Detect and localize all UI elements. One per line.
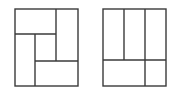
diagram-canvas	[0, 0, 177, 93]
left-rectangle-partition	[15, 9, 78, 86]
right-rectangle-partition	[103, 9, 166, 86]
outer-border	[15, 9, 78, 86]
outer-border	[103, 9, 166, 86]
